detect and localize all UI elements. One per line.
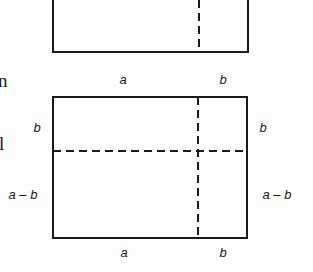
label-top-a: a [119,72,126,87]
diagram-canvas: a b b b a – b a – b a b n l [0,0,313,272]
label-bottom-b: b [219,245,226,260]
label-left-a-minus-b: a – b [9,187,38,202]
label-left-b: b [33,120,40,135]
margin-fragment-n: n [0,70,8,91]
label-right-a-minus-b: a – b [263,187,292,202]
top-rectangle [53,0,248,52]
bottom-rectangle [53,97,247,238]
label-bottom-a: a [120,245,127,260]
margin-fragment-l: l [0,133,4,154]
label-top-b: b [219,72,226,87]
label-right-b: b [259,120,266,135]
